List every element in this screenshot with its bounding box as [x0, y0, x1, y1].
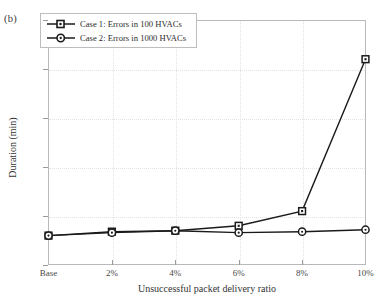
x-tick-label: 8%	[296, 268, 308, 278]
x-tick-label: 2%	[106, 268, 118, 278]
legend-label-case-2: Case 2: Errors in 1000 HVACs	[80, 33, 186, 43]
data-point-core	[301, 210, 303, 212]
data-point-core	[111, 232, 113, 234]
x-tick-mark	[302, 260, 303, 265]
x-tick-label: Base	[40, 268, 58, 278]
y-tick-mark	[43, 265, 48, 266]
legend-entry-case-2: Case 2: Errors in 1000 HVACs	[41, 31, 196, 45]
data-point-core	[364, 58, 366, 60]
chart-figure: (b) Duration (min) Unsuccessful packet d…	[0, 0, 379, 303]
x-tick-label: 10%	[357, 268, 374, 278]
x-tick-label: 6%	[233, 268, 245, 278]
data-point-core	[238, 225, 240, 227]
panel-label: (b)	[4, 13, 17, 24]
legend-marker-circle-icon	[46, 32, 76, 44]
legend-label-case-1: Case 1: Errors in 100 HVACs	[80, 19, 182, 29]
y-tick-mark	[43, 20, 48, 21]
x-tick-mark	[175, 260, 176, 265]
data-point-core	[47, 235, 49, 237]
y-tick-mark	[43, 118, 48, 119]
legend-marker-square-icon	[46, 18, 76, 30]
x-axis-label: Unsuccessful packet delivery ratio	[48, 283, 366, 294]
y-tick-mark	[43, 69, 48, 70]
x-tick-mark	[112, 260, 113, 265]
data-point-core	[364, 229, 366, 231]
y-tick-mark	[43, 167, 48, 168]
y-axis-label: Duration (min)	[7, 68, 18, 228]
y-tick-mark	[43, 216, 48, 217]
data-point-core	[174, 230, 176, 232]
data-point-core	[301, 231, 303, 233]
chart-legend: Case 1: Errors in 100 HVACs Case 2: Erro…	[40, 13, 197, 48]
series-line	[49, 59, 366, 235]
legend-entry-case-1: Case 1: Errors in 100 HVACs	[41, 17, 196, 31]
series-1	[45, 56, 369, 239]
data-point-core	[238, 232, 240, 234]
x-tick-label: 4%	[169, 268, 181, 278]
chart-data-layer	[48, 20, 366, 265]
x-tick-mark	[239, 260, 240, 265]
